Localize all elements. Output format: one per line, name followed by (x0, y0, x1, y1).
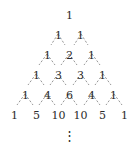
pascals-triangle-figure: 1 1 1 1 2 1 1 3 3 1 1 4 6 4 1 1 5 10 10 … (0, 0, 139, 147)
triangle-cell: 1 (37, 50, 59, 61)
triangle-cell: 5 (92, 110, 114, 121)
triangle-cell: 1 (59, 10, 81, 21)
triangle-cell: 10 (70, 110, 92, 121)
triangle-cell: 1 (114, 110, 136, 121)
triangle-row-3: 1 3 3 1 (0, 70, 139, 81)
triangle-cell: 1 (26, 70, 48, 81)
triangle-cell: 4 (81, 90, 103, 101)
vertical-ellipsis: ⋮ (0, 129, 139, 142)
triangle-cell: 2 (59, 50, 81, 61)
triangle-cell: 1 (70, 30, 92, 41)
triangle-row-2: 1 2 1 (0, 50, 139, 61)
triangle-row-5: 1 5 10 10 5 1 (0, 110, 139, 121)
triangle-row-1: 1 1 (0, 30, 139, 41)
triangle-cell: 1 (15, 90, 37, 101)
triangle-cell: 6 (59, 90, 81, 101)
triangle-cell: 1 (48, 30, 70, 41)
triangle-cell: 1 (4, 110, 26, 121)
triangle-row-4: 1 4 6 4 1 (0, 90, 139, 101)
triangle-cell: 3 (70, 70, 92, 81)
triangle-cell: 4 (37, 90, 59, 101)
triangle-row-0: 1 (0, 10, 139, 21)
triangle-cell: 1 (103, 90, 125, 101)
triangle-cell: 1 (92, 70, 114, 81)
triangle-cell: 10 (48, 110, 70, 121)
triangle-cell: 5 (26, 110, 48, 121)
triangle-cell: 1 (81, 50, 103, 61)
triangle-cell: 3 (48, 70, 70, 81)
